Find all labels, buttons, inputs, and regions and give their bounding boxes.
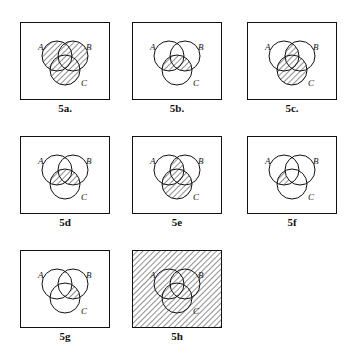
set-label-c: C — [81, 306, 88, 316]
set-label-a: A — [149, 270, 156, 280]
shaded-region — [132, 250, 222, 328]
shaded-region — [20, 136, 110, 214]
set-label-a: A — [264, 156, 271, 166]
panel-caption: 5f — [247, 216, 337, 228]
venn-diagram: ABC — [20, 136, 110, 214]
venn-diagram: ABC — [132, 136, 222, 214]
cropped-header-text — [22, 0, 302, 4]
set-label-b: B — [86, 156, 92, 166]
set-label-b: B — [313, 42, 319, 52]
venn-panel-5f: ABC5f — [247, 136, 337, 228]
venn-panel-5d: ABC5d — [20, 136, 110, 228]
venn-panel-5c: ABC5c. — [247, 22, 337, 114]
set-label-b: B — [198, 156, 204, 166]
panel-caption: 5c. — [247, 102, 337, 114]
venn-diagram: ABC — [132, 22, 222, 100]
venn-panel-5g: ABC5g — [20, 250, 110, 342]
set-label-a: A — [37, 270, 44, 280]
set-label-c: C — [81, 78, 88, 88]
shaded-region — [20, 250, 110, 328]
set-label-b: B — [198, 270, 204, 280]
shaded-region — [247, 22, 337, 100]
shaded-region — [20, 22, 110, 100]
panel-caption: 5e — [132, 216, 222, 228]
set-label-b: B — [86, 42, 92, 52]
panel-caption: 5a. — [20, 102, 110, 114]
set-label-c: C — [193, 192, 200, 202]
panel-caption: 5g — [20, 330, 110, 342]
venn-panel-5h: ABC5h — [132, 250, 222, 342]
venn-diagram: ABC — [20, 250, 110, 328]
venn-panel-5a: ABC5a. — [20, 22, 110, 114]
set-label-b: B — [198, 42, 204, 52]
set-label-c: C — [308, 192, 315, 202]
venn-panel-5b: ABC5b. — [132, 22, 222, 114]
venn-diagram: ABC — [247, 136, 337, 214]
set-label-c: C — [193, 78, 200, 88]
set-label-a: A — [149, 156, 156, 166]
panel-caption: 5h — [132, 330, 222, 342]
set-label-a: A — [149, 42, 156, 52]
set-label-b: B — [313, 156, 319, 166]
venn-diagram: ABC — [20, 22, 110, 100]
panel-caption: 5b. — [132, 102, 222, 114]
set-label-a: A — [37, 156, 44, 166]
shaded-region — [247, 136, 337, 214]
venn-diagram: ABC — [132, 250, 222, 328]
shaded-region — [132, 22, 222, 100]
set-label-a: A — [264, 42, 271, 52]
venn-panel-5e: ABC5e — [132, 136, 222, 228]
panel-caption: 5d — [20, 216, 110, 228]
set-label-b: B — [86, 270, 92, 280]
set-label-c: C — [81, 192, 88, 202]
set-label-c: C — [308, 78, 315, 88]
set-label-c: C — [193, 306, 200, 316]
venn-diagram: ABC — [247, 22, 337, 100]
shaded-region — [132, 136, 222, 214]
set-label-a: A — [37, 42, 44, 52]
